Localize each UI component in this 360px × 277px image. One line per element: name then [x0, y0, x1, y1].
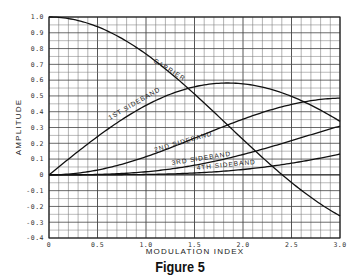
y-tick-label: -0.4 — [26, 234, 44, 242]
x-tick-label: 0 — [47, 241, 51, 249]
y-tick-label: 0.9 — [31, 29, 44, 37]
x-tick-label: 0.5 — [91, 241, 104, 249]
y-tick-label: -0.2 — [26, 203, 44, 211]
y-tick-label: 0.1 — [31, 155, 44, 163]
x-tick-label: 2.5 — [285, 241, 298, 249]
x-axis-title: MODULATION INDEX — [146, 247, 245, 256]
y-tick-label: 0.3 — [31, 124, 44, 132]
x-tick-label: 3.0 — [333, 241, 346, 249]
y-tick-label: 0.4 — [31, 108, 44, 116]
grid — [49, 17, 340, 238]
y-tick-label: 0 — [40, 171, 44, 179]
y-axis-title: AMPLITUDE — [14, 99, 23, 156]
y-tick-label: 0.2 — [31, 140, 44, 148]
y-tick-label: 1.0 — [31, 13, 44, 21]
figure-caption: Figure 5 — [27, 258, 333, 275]
y-tick-label: 0.5 — [31, 92, 44, 100]
bessel-sideband-chart: 1.00.90.80.70.60.50.40.30.20.10-0.1-0.2-… — [0, 0, 360, 277]
curve-label-carrier: CARRIER — [152, 57, 186, 82]
y-tick-label: -0.3 — [26, 219, 44, 227]
y-tick-label: 0.7 — [31, 61, 44, 69]
curve-label-1st-sideband: 1ST SIDEBAND — [107, 85, 161, 120]
y-tick-label: 0.8 — [31, 45, 44, 53]
y-tick-label: 0.6 — [31, 76, 44, 84]
y-tick-label: -0.1 — [26, 187, 44, 195]
y-axis-ticks: 1.00.90.80.70.60.50.40.30.20.10-0.1-0.2-… — [26, 13, 44, 242]
